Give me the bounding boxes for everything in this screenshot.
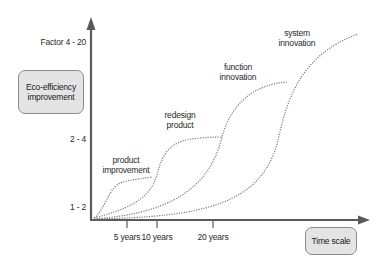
y-tick-label-factor-4-20: Factor 4 - 20	[18, 37, 86, 47]
x-tick-label-20-years: 20 years	[193, 232, 233, 242]
curve-product-improvement	[94, 177, 152, 218]
x-axis-label-box: Time scale	[305, 227, 357, 255]
y-axis-arrow-icon	[87, 17, 96, 30]
curve-label-function-innovation: function innovation	[213, 62, 263, 82]
curve-label-product-improvement: product improvement	[96, 155, 156, 175]
y-axis-label-box: Eco-efficiency improvement	[18, 70, 84, 114]
curve-redesign-product	[94, 137, 222, 218]
y-axis-label-line2: improvement	[26, 92, 76, 102]
x-axis-arrow-icon	[358, 216, 370, 225]
y-axis-label-line1: Eco-efficiency	[26, 82, 76, 92]
curve-function-innovation	[94, 82, 287, 219]
y-tick-label-1-2: 1 - 2	[30, 202, 86, 212]
curve-label-redesign-product: redesign product	[155, 110, 205, 130]
x-axis-label: Time scale	[312, 236, 351, 246]
x-tick-label-10-years: 10 years	[137, 232, 177, 242]
curve-label-system-innovation: system innovation	[272, 28, 322, 48]
eco-efficiency-diagram: Factor 4 - 20 2 - 4 1 - 2 Eco-efficiency…	[0, 0, 382, 272]
y-tick-label-2-4: 2 - 4	[30, 134, 86, 144]
